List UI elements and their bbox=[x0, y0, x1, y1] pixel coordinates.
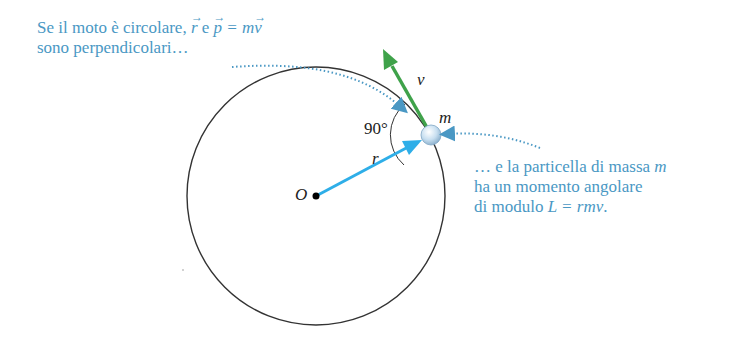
pointer-right bbox=[447, 134, 540, 148]
annotation-top-left: Se il moto è circolare, r e p = mv sono … bbox=[37, 18, 262, 58]
radius-vector bbox=[316, 146, 410, 196]
vector-p-symbol: p bbox=[214, 18, 223, 38]
angle-label: 90° bbox=[364, 119, 388, 139]
mass-label: m bbox=[439, 108, 451, 128]
pointer-top-left bbox=[232, 66, 402, 108]
annotation-right-line2: ha un momento angolare bbox=[474, 177, 667, 197]
annotation-text: di modulo bbox=[474, 197, 548, 216]
annotation-top-left-line1: Se il moto è circolare, r e p = mv bbox=[37, 18, 262, 38]
particle bbox=[421, 125, 441, 145]
origin-point bbox=[313, 193, 320, 200]
mass-variable: m bbox=[654, 157, 666, 176]
annotation-text: Se il moto è circolare, bbox=[37, 18, 191, 37]
velocity-arrowhead bbox=[383, 49, 398, 70]
annotation-right-line3: di modulo L = rmv. bbox=[474, 197, 667, 217]
equation-text: = m bbox=[222, 18, 254, 37]
angular-momentum-formula: L = rmv bbox=[548, 197, 604, 216]
annotation-right: … e la particella di massa m ha un momen… bbox=[474, 157, 667, 217]
radius-label: r bbox=[372, 149, 379, 169]
origin-label: O bbox=[295, 185, 307, 205]
vector-v-symbol: v bbox=[254, 18, 262, 38]
vector-r-symbol: r bbox=[191, 18, 198, 38]
velocity-label: v bbox=[417, 70, 425, 90]
annotation-top-left-line2: sono perpendicolari… bbox=[37, 38, 262, 58]
speck bbox=[182, 269, 184, 271]
annotation-text: … e la particella di massa bbox=[474, 157, 654, 176]
annotation-text: . bbox=[603, 197, 607, 216]
annotation-right-line1: … e la particella di massa m bbox=[474, 157, 667, 177]
